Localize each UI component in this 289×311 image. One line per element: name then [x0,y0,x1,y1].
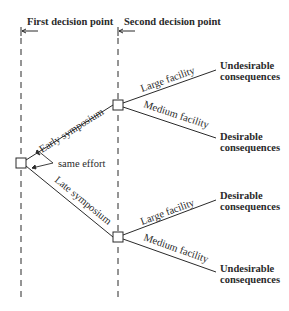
first-header-arrow-icon [21,27,38,36]
outcome-late-large-line1: Desirable [220,190,263,201]
decision-tree-diagram: First decision point Second decision poi… [0,0,289,311]
early-large-facility-label: Large facility [139,64,197,94]
second-header-arrow-icon [118,27,135,36]
outcome-early-large-line1: Undesirable [220,60,275,71]
first-decision-point-label: First decision point [27,16,114,27]
outcome-late-medium-line2: consequences [220,274,280,285]
late-large-facility-label: Large facility [139,196,197,226]
second-decision-point-label: Second decision point [124,16,221,27]
early-medium-facility-label: Medium facility [142,98,211,130]
early-symposium-label: Early symposium [37,106,105,155]
late-decision-node [113,232,123,242]
late-medium-facility-label: Medium facility [142,232,210,265]
outcome-early-medium-line2: consequences [220,142,280,153]
outcome-early-large-line2: consequences [220,71,280,82]
outcome-late-medium-line1: Undesirable [220,263,275,274]
branch-late-symposium [26,166,113,237]
root-decision-node [16,158,26,168]
same-effort-label: same effort [58,158,105,169]
early-decision-node [113,100,123,110]
outcome-late-large-line2: consequences [220,201,280,212]
late-symposium-label: Late symposium [53,174,114,227]
outcome-early-medium-line1: Desirable [220,131,263,142]
